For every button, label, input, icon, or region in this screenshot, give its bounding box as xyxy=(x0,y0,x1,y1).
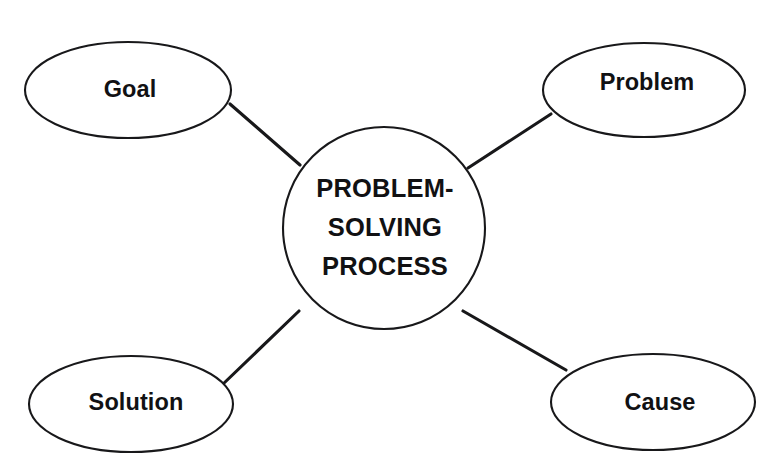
problem-solving-process-diagram: Goal Problem Solution Cause PROBLEM- SOL… xyxy=(0,0,770,474)
diagram-canvas: Goal Problem Solution Cause PROBLEM- SOL… xyxy=(0,0,770,474)
hub-label-line-1: PROBLEM- xyxy=(316,174,454,202)
connector-hub-to-problem xyxy=(468,114,551,168)
node-solution[interactable]: Solution xyxy=(29,356,233,452)
node-cause-label: Cause xyxy=(624,389,695,415)
node-problem[interactable]: Problem xyxy=(543,43,745,137)
connector-hub-to-cause xyxy=(463,311,566,370)
node-cause[interactable]: Cause xyxy=(551,354,755,450)
node-hub-problem-solving-process[interactable]: PROBLEM- SOLVING PROCESS xyxy=(283,127,485,329)
node-goal[interactable]: Goal xyxy=(25,42,231,138)
node-solution-label: Solution xyxy=(89,389,184,415)
connector-hub-to-goal xyxy=(230,104,300,165)
hub-label-line-2: SOLVING xyxy=(328,213,442,241)
connector-hub-to-solution xyxy=(222,311,299,385)
node-problem-label: Problem xyxy=(600,69,695,95)
node-goal-label: Goal xyxy=(104,76,157,102)
hub-label-line-3: PROCESS xyxy=(322,252,448,280)
